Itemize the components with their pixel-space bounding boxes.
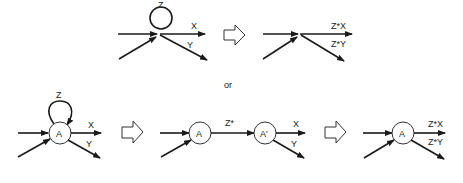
out-label-x: X <box>293 119 299 129</box>
input-edge-2 <box>263 37 297 59</box>
out-label-zx: Z*X <box>331 21 346 31</box>
transform-arrow-icon <box>122 121 143 143</box>
node-a-label: A <box>399 129 405 139</box>
node-a-label: A <box>196 129 202 139</box>
out-label-x: X <box>191 21 197 31</box>
output-edge-y <box>68 140 100 158</box>
self-loop-edge <box>150 7 172 29</box>
out-label-zx: Z*X <box>428 119 443 129</box>
transform-arrow-icon <box>325 121 346 143</box>
out-label-zy: Z*Y <box>428 137 443 147</box>
out-label-x: X <box>88 120 94 130</box>
loop-label-z: Z <box>56 90 62 100</box>
out-label-y: Y <box>86 139 92 149</box>
out-label-y: Y <box>291 139 297 149</box>
self-loop-edge <box>49 101 72 125</box>
output-edge-y <box>273 140 304 158</box>
input-edge-2 <box>161 140 191 157</box>
out-label-zy: Z*Y <box>331 39 346 49</box>
top-before-graph: Z X Y <box>118 0 207 60</box>
transform-arrow-icon <box>224 25 245 45</box>
out-label-y: Y <box>187 40 193 50</box>
input-edge-2 <box>364 140 394 158</box>
node-a-prime-label: A' <box>260 129 268 139</box>
output-edge-y <box>160 35 207 60</box>
loop-label-z: Z <box>158 0 164 10</box>
edge-label-z-star: Z* <box>225 118 234 128</box>
top-after-graph: Z*X Z*Y <box>263 21 352 61</box>
node-a-label: A <box>56 129 62 139</box>
input-edge-2 <box>119 37 156 59</box>
separator-or: or <box>224 80 232 90</box>
bottom-step3-graph: A Z*X Z*Y <box>363 119 445 159</box>
loop-elimination-diagram: Z X Y Z*X Z*Y or Z A X Y A <box>0 0 463 183</box>
input-edge-2 <box>18 139 50 157</box>
bottom-step2-graph: A Z* A' X Y <box>160 118 305 158</box>
bottom-step1-graph: Z A X Y <box>18 90 101 158</box>
